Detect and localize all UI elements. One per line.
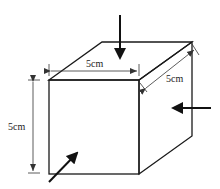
- cube-diagram: 5cm 5cm 5cm: [0, 0, 220, 189]
- front-force-arrow-icon: [49, 153, 77, 182]
- width-label: 5cm: [86, 58, 103, 69]
- height-label: 5cm: [8, 121, 25, 132]
- width-dimension: 5cm: [49, 58, 139, 76]
- forces: [49, 15, 211, 182]
- cube: [49, 42, 192, 174]
- depth-label: 5cm: [166, 73, 183, 84]
- depth-dimension: 5cm: [140, 44, 199, 92]
- front-face: [49, 80, 139, 174]
- height-dimension: 5cm: [8, 80, 40, 173]
